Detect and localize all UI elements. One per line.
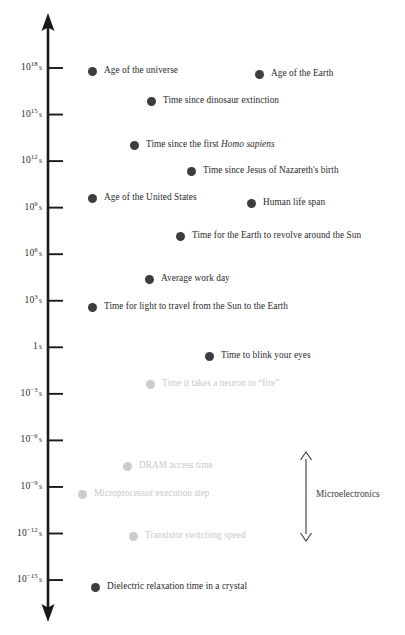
axis-tick-label: 103s xyxy=(25,296,42,306)
axis-arrow-top xyxy=(42,13,55,31)
axis-tick-label: 10−15s xyxy=(17,575,42,585)
data-point-dot-icon xyxy=(146,380,155,389)
axis-tick-label: 10−9s xyxy=(21,482,42,492)
annotation-label: Microelectronics xyxy=(316,490,380,499)
data-point-dot-icon xyxy=(176,232,185,241)
data-point-label: Time since dinosaur extinction xyxy=(163,96,279,105)
axis-tick-label: 1012s xyxy=(21,156,42,166)
data-point-dot-icon xyxy=(147,97,156,106)
data-point-dot-icon xyxy=(88,67,97,76)
timescale-log-chart: 1018s1015s1012s109s106s103s1s10−3s10−6s1… xyxy=(0,0,405,635)
data-point-dot-icon xyxy=(88,303,97,312)
data-point-label: Dielectric relaxation time in a crystal xyxy=(107,582,247,591)
data-point-dot-icon xyxy=(91,583,100,592)
data-point-label: Transistor switching speed xyxy=(145,531,246,540)
data-point-dot-icon xyxy=(88,194,97,203)
data-point-dot-icon xyxy=(187,167,196,176)
axis-tick-label: 10−12s xyxy=(17,529,42,539)
data-point-label: Time for light to travel from the Sun to… xyxy=(104,302,288,311)
data-point-dot-icon xyxy=(130,141,139,150)
data-point-label: Average work day xyxy=(161,274,230,283)
data-point-label: Time it takes a neuron to “fire” xyxy=(162,379,279,388)
data-point-label: Age of the Earth xyxy=(271,69,334,78)
data-point-label: Microprocessor execution step xyxy=(94,489,210,498)
data-point-label: DRAM access time xyxy=(139,461,213,470)
axis-tick-label: 10−6s xyxy=(21,435,42,445)
axis-tick-label: 1015s xyxy=(21,110,42,120)
data-point-dot-icon xyxy=(123,462,132,471)
annotation-arrowhead-down-icon xyxy=(301,533,312,541)
data-point-label: Time to blink your eyes xyxy=(221,351,311,360)
data-point-label: Human life span xyxy=(263,198,325,207)
data-point-dot-icon xyxy=(255,70,264,79)
data-point-label: Time for the Earth to revolve around the… xyxy=(192,231,361,240)
data-point-dot-icon xyxy=(129,532,138,541)
data-point-label: Time since Jesus of Nazareth's birth xyxy=(203,166,339,175)
axis-ticks xyxy=(48,68,63,580)
axis-line-group xyxy=(42,13,55,622)
data-point-dot-icon xyxy=(145,275,154,284)
data-point-dot-icon xyxy=(205,352,214,361)
data-point-label: Age of the universe xyxy=(104,66,178,75)
axis-tick-label: 106s xyxy=(25,249,42,259)
axis-arrow-bottom xyxy=(42,604,55,622)
data-point-dot-icon xyxy=(78,490,87,499)
data-point-dot-icon xyxy=(247,199,256,208)
annotation-arrowhead-up-icon xyxy=(301,452,312,460)
data-point-label: Time since the first Homo sapiens xyxy=(146,140,275,149)
axis-tick-label: 109s xyxy=(25,203,42,213)
axis-tick-label: 10−3s xyxy=(21,389,42,399)
axis-tick-label: 1s xyxy=(33,342,42,352)
data-point-label: Age of the United States xyxy=(104,193,197,202)
axis-tick-label: 1018s xyxy=(21,63,42,73)
